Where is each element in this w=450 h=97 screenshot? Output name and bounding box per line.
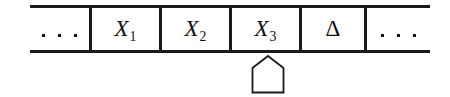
- ellipsis-dot: [74, 34, 77, 37]
- tape-symbol-x3-subscript: 3: [270, 29, 277, 44]
- tape-symbol-x3: X3: [255, 17, 277, 40]
- read-write-head-icon: [251, 55, 285, 94]
- ellipsis-dot: [397, 34, 400, 37]
- ellipsis-dots-left: [42, 34, 77, 37]
- read-write-head: [251, 55, 285, 94]
- ellipsis-dot: [413, 34, 416, 37]
- turing-machine-tape-diagram: X1 X2 X3 Δ: [0, 0, 450, 97]
- ellipsis-dot: [58, 34, 61, 37]
- tape-cell-x2: X2: [162, 8, 232, 50]
- tape-symbol-x2-base: X: [185, 16, 200, 41]
- tape-cell-x1: X1: [92, 8, 162, 50]
- tape: X1 X2 X3 Δ: [30, 5, 430, 53]
- tape-symbol-x3-base: X: [255, 16, 270, 41]
- tape-symbol-delta: Δ: [326, 17, 341, 40]
- tape-symbol-x1-base: X: [115, 16, 130, 41]
- tape-cell-left-ellipsis: [30, 8, 92, 50]
- tape-symbol-x1-subscript: 1: [130, 29, 137, 44]
- ellipsis-dot: [381, 34, 384, 37]
- ellipsis-dots-right: [381, 34, 416, 37]
- tape-cell-x3: X3: [232, 8, 302, 50]
- ellipsis-dot: [42, 34, 45, 37]
- tape-cell-delta: Δ: [302, 8, 367, 50]
- tape-symbol-x2: X2: [185, 17, 207, 40]
- tape-symbol-x2-subscript: 2: [200, 29, 207, 44]
- tape-cell-right-ellipsis: [367, 8, 429, 50]
- tape-symbol-x1: X1: [115, 17, 137, 40]
